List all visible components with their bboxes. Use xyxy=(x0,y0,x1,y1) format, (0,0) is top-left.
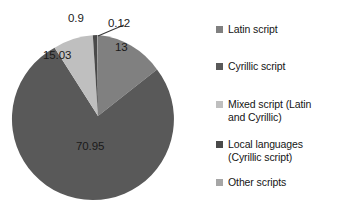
pie-svg xyxy=(0,0,208,203)
slice-value-latin-script: 13 xyxy=(115,41,128,53)
legend-label-cyrillic-script: Cyrillic script xyxy=(228,60,285,73)
legend-swatch-icon-cyrillic-script xyxy=(216,63,223,70)
legend-swatch-icon-mixed-script xyxy=(216,101,223,108)
slice-value-mixed-script: 15.03 xyxy=(43,49,71,61)
legend-item-local-languages[interactable]: Local languages (Cyrillic script) xyxy=(216,138,347,163)
legend-item-cyrillic-script[interactable]: Cyrillic script xyxy=(216,60,347,73)
legend-item-other-scripts[interactable]: Other scripts xyxy=(216,176,347,189)
legend-label-latin-script: Latin script xyxy=(228,23,278,36)
legend-item-mixed-script[interactable]: Mixed script (Latin and Cyrillic) xyxy=(216,98,347,123)
slice-value-other-scripts: 0.12 xyxy=(108,17,130,29)
pie-plot-area: 13 70.95 15.03 0.9 0.12 xyxy=(0,0,208,203)
legend-swatch-icon-other-scripts xyxy=(216,179,223,186)
legend-label-other-scripts: Other scripts xyxy=(228,176,286,189)
slice-value-local-languages: 0.9 xyxy=(68,12,84,24)
legend: Latin script Cyrillic script Mixed scrip… xyxy=(210,0,347,203)
legend-swatch-icon-latin-script xyxy=(216,26,223,33)
legend-swatch-icon-local-languages xyxy=(216,141,223,148)
slice-value-cyrillic-script: 70.95 xyxy=(76,140,104,152)
legend-label-local-languages: Local languages (Cyrillic script) xyxy=(228,138,303,163)
pie-chart-figure: 13 70.95 15.03 0.9 0.12 Latin script Cyr… xyxy=(0,0,347,203)
legend-label-mixed-script: Mixed script (Latin and Cyrillic) xyxy=(228,98,311,123)
legend-item-latin-script[interactable]: Latin script xyxy=(216,23,347,36)
